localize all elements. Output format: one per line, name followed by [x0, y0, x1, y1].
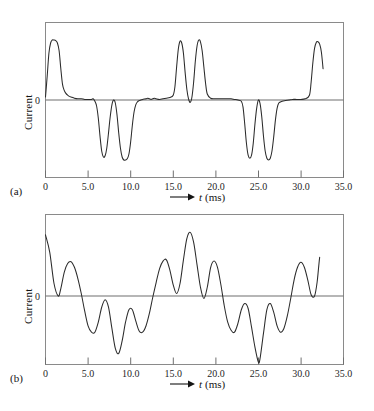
- panel-b-caption: (b): [10, 372, 23, 384]
- xtick-label: 25.0: [250, 368, 268, 379]
- xtick-label: 5.0: [82, 181, 95, 192]
- xtick-label: 0: [43, 368, 48, 379]
- xtick-label: 0: [43, 181, 48, 192]
- plot-a-canvas: 0 5.0 10.0 15.0 20.0 25.0 30.0 35.0 0: [0, 0, 374, 208]
- figure-two-panel-current-waveforms: 0 5.0 10.0 15.0 20.0 25.0 30.0 35.0 0 Cu…: [0, 0, 374, 411]
- xtick-label: 30.0: [292, 368, 310, 379]
- plot-b-trace: [46, 232, 320, 363]
- plot-b-y-axis-title: Current: [22, 288, 34, 324]
- plot-a-y-axis-title: Current: [22, 94, 34, 130]
- xtick-label: 10.0: [122, 368, 140, 379]
- plot-b-x-var: t: [199, 378, 202, 390]
- plot-b-x-axis-title: t (ms): [170, 378, 225, 390]
- xtick-label: 30.0: [292, 181, 310, 192]
- panel-b: 0 5.0 10.0 15.0 20.0 25.0 30.0 35.0 0 Cu…: [0, 198, 374, 411]
- xtick-label: 10.0: [122, 181, 140, 192]
- plot-a-xticks: [46, 171, 344, 178]
- plot-b-xticks: [46, 358, 344, 365]
- panel-a-caption: (a): [10, 185, 22, 197]
- xtick-label: 35.0: [335, 368, 353, 379]
- right-arrow-icon: [170, 379, 196, 389]
- ytick-label-zero: 0: [35, 291, 40, 302]
- xtick-label: 35.0: [335, 181, 353, 192]
- panel-a: 0 5.0 10.0 15.0 20.0 25.0 30.0 35.0 0 Cu…: [0, 0, 374, 208]
- plot-b-x-unit: (ms): [205, 378, 225, 390]
- xtick-label: 25.0: [250, 181, 268, 192]
- ytick-label-zero: 0: [35, 95, 40, 106]
- plot-b-frame: [46, 215, 344, 365]
- xtick-label: 5.0: [82, 368, 95, 379]
